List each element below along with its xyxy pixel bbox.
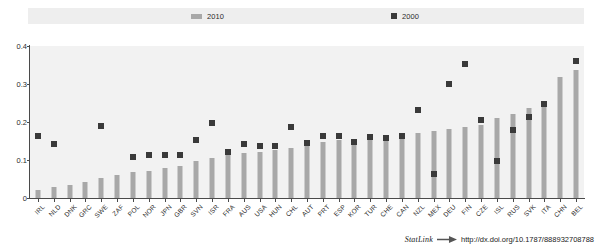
marker-2000	[541, 101, 547, 107]
chart-bar-group	[141, 46, 157, 198]
marker-2000	[130, 154, 136, 160]
bar-2010	[162, 168, 167, 198]
x-tick-label: USA	[252, 203, 267, 218]
x-tick-mark	[260, 199, 261, 202]
x-tick-mark	[244, 199, 245, 202]
marker-2000	[526, 114, 532, 120]
x-tick-label: ISL	[493, 203, 505, 215]
x-tick-label: ZAF	[111, 203, 125, 217]
x-tick-mark	[544, 199, 545, 202]
x-axis-labels: IRLNLDDNKGRCSWEZAFPOLNORJPNGBRSVNISRFRAA…	[30, 203, 584, 233]
x-tick-label: NOR	[141, 203, 157, 219]
bar-2010	[241, 153, 246, 198]
marker-2000	[431, 171, 437, 177]
bar-2010	[336, 140, 341, 198]
x-tick-mark	[434, 199, 435, 202]
x-tick-label: POL	[126, 203, 141, 218]
x-tick-mark	[513, 199, 514, 202]
marker-2000	[98, 123, 104, 129]
x-tick-label: FRA	[221, 203, 236, 218]
x-tick-label: DEU	[442, 203, 457, 218]
statlink-url[interactable]: http://dx.doi.org/10.1787/888932708788	[461, 235, 594, 244]
bar-2010	[447, 129, 452, 198]
x-tick-label: CHL	[284, 203, 299, 218]
chart-bar-group	[473, 46, 489, 198]
marker-2000	[272, 143, 278, 149]
chart-bar-group	[552, 46, 568, 198]
marker-2000	[446, 81, 452, 87]
statlink-label: StatLink	[405, 235, 433, 244]
marker-2000	[399, 133, 405, 139]
x-tick-mark	[307, 199, 308, 202]
x-tick-mark	[117, 199, 118, 202]
bar-2010	[463, 127, 468, 198]
chart-legend: 2010 2000	[28, 8, 584, 24]
chart-bar-group	[283, 46, 299, 198]
bar-2010	[99, 178, 104, 198]
x-tick-label: JPN	[158, 203, 172, 217]
chart-bar-group	[299, 46, 315, 198]
bar-2010	[431, 131, 436, 198]
x-tick-label: MEX	[426, 203, 441, 218]
x-tick-label: AUT	[300, 203, 315, 218]
marker-2000	[320, 133, 326, 139]
bar-2010	[368, 138, 373, 198]
legend-label-2000: 2000	[402, 12, 419, 21]
x-tick-label: CHE	[379, 203, 394, 218]
x-tick-label: RUS	[505, 203, 520, 218]
bar-2010	[225, 155, 230, 198]
chart-bar-group	[362, 46, 378, 198]
x-tick-mark	[576, 199, 577, 202]
chart-bar-group	[157, 46, 173, 198]
x-tick-mark	[465, 199, 466, 202]
bar-2010	[67, 185, 72, 198]
chart-bar-group	[109, 46, 125, 198]
y-tick-mark	[27, 122, 30, 123]
chart-bar-group	[347, 46, 363, 198]
x-tick-mark	[449, 199, 450, 202]
y-tick-label: 0.1	[3, 156, 27, 165]
x-tick-mark	[133, 199, 134, 202]
y-tick-mark	[27, 84, 30, 85]
y-tick-mark	[27, 160, 30, 161]
x-tick-label: FIN	[460, 203, 473, 216]
x-tick-label: NLD	[47, 203, 62, 218]
x-tick-mark	[497, 199, 498, 202]
x-tick-label: NZL	[412, 203, 426, 217]
chart-bar-group	[46, 46, 62, 198]
marker-2000	[383, 135, 389, 141]
marker-2000	[573, 58, 579, 64]
marker-2000	[351, 139, 357, 145]
statlink-row: StatLink http://dx.doi.org/10.1787/88893…	[405, 235, 594, 244]
marker-2000	[35, 133, 41, 139]
chart-bar-group	[537, 46, 553, 198]
chart-bar-group	[188, 46, 204, 198]
marker-2000	[241, 141, 247, 147]
bar-2010	[320, 142, 325, 198]
chart-bar-group	[267, 46, 283, 198]
bar-2010	[273, 150, 278, 198]
bar-2010	[304, 145, 309, 198]
bar-2010	[542, 102, 547, 198]
chart-bar-group	[568, 46, 584, 198]
bar-2010	[574, 70, 579, 198]
marker-2000	[304, 140, 310, 146]
chart-bar-group	[315, 46, 331, 198]
x-tick-mark	[481, 199, 482, 202]
marker-2000	[510, 127, 516, 133]
chart-bar-group	[442, 46, 458, 198]
y-tick-label: 0.4	[3, 42, 27, 51]
bar-2010	[130, 172, 135, 198]
y-tick-mark	[27, 46, 30, 47]
x-tick-mark	[291, 199, 292, 202]
x-tick-label: SVK	[522, 203, 537, 218]
x-tick-label: HUN	[268, 203, 283, 218]
legend-swatch-bar-icon	[191, 14, 202, 19]
x-tick-mark	[418, 199, 419, 202]
x-tick-label: CHN	[553, 203, 568, 218]
bar-2010	[479, 125, 484, 198]
x-tick-mark	[402, 199, 403, 202]
x-tick-label: BEL	[570, 203, 584, 217]
bar-2010	[257, 152, 262, 198]
marker-2000	[478, 117, 484, 123]
